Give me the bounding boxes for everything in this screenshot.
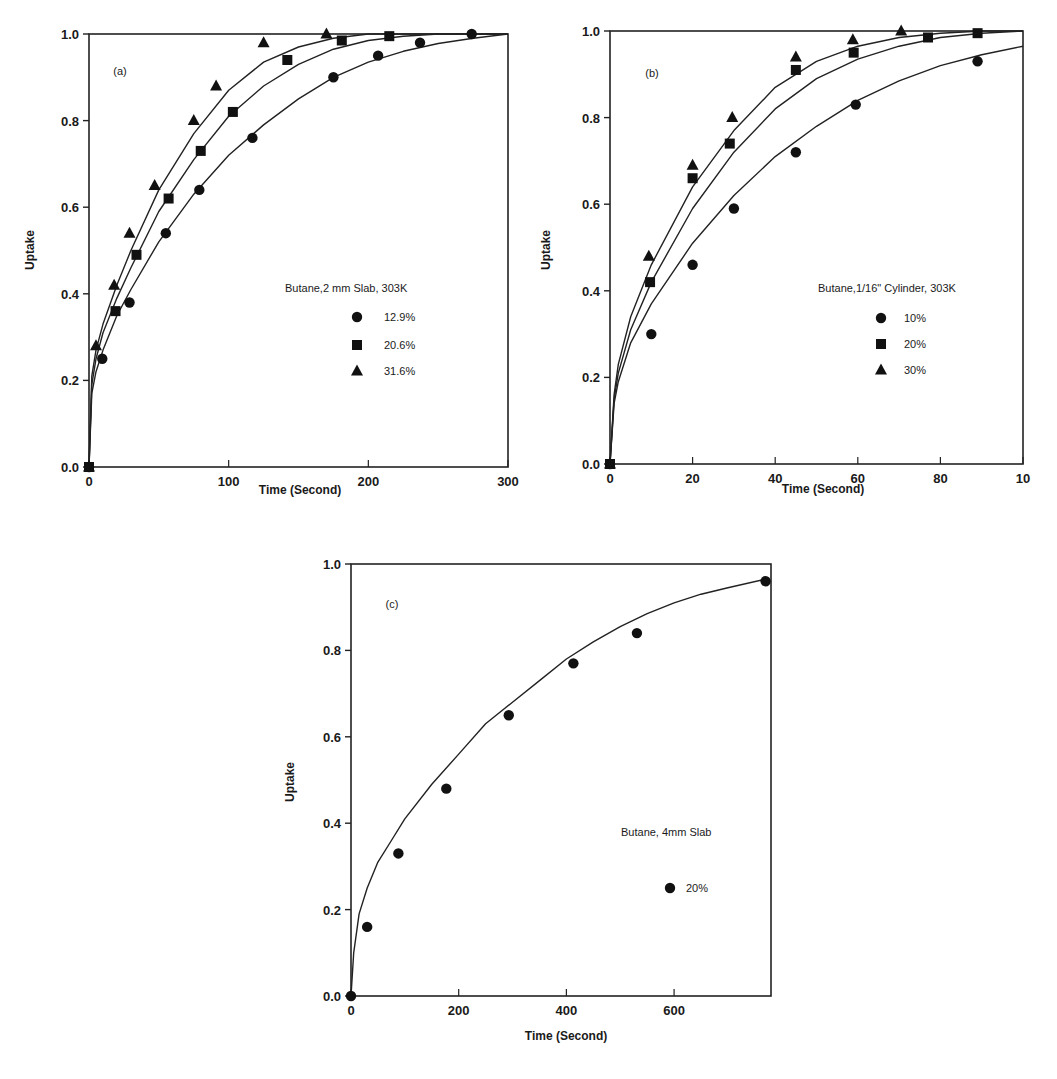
legend-label: 30% xyxy=(904,364,926,376)
data-point-triangle xyxy=(149,179,161,190)
data-point-circle xyxy=(504,710,514,720)
y-tick-label: 0.4 xyxy=(61,287,80,302)
fit-curve-square xyxy=(610,31,1023,464)
data-point-square xyxy=(645,277,655,287)
y-tick-label: 0.0 xyxy=(323,989,341,1004)
x-tick-label: 300 xyxy=(497,474,519,489)
y-axis-title: Uptake xyxy=(539,230,553,270)
data-point-square xyxy=(164,194,174,204)
legend-label: 31.6% xyxy=(384,365,415,377)
plot-frame xyxy=(610,31,1023,464)
y-tick-label: 0.8 xyxy=(323,643,341,658)
x-tick-label: 10 xyxy=(1016,471,1030,486)
data-point-circle xyxy=(97,354,107,364)
x-tick-label: 600 xyxy=(663,1003,685,1018)
x-axis-title: Time (Second) xyxy=(525,1029,607,1043)
chart-a-svg: 0.00.20.40.60.81.00100200300Time (Second… xyxy=(0,0,530,520)
legend-square-icon xyxy=(352,340,362,350)
y-tick-label: 0.4 xyxy=(323,816,342,831)
data-point-circle xyxy=(247,133,257,143)
data-point-triangle xyxy=(895,25,907,36)
x-tick-label: 0 xyxy=(347,1003,354,1018)
data-point-circle xyxy=(646,329,656,339)
data-point-triangle xyxy=(643,250,655,261)
data-point-square xyxy=(791,65,801,75)
data-point-circle xyxy=(415,37,425,47)
data-point-circle xyxy=(373,50,383,60)
data-point-circle xyxy=(346,991,356,1001)
data-point-circle xyxy=(362,922,372,932)
data-point-circle xyxy=(393,848,403,858)
fit-curve-circle xyxy=(610,46,1023,464)
y-tick-label: 0.4 xyxy=(582,284,601,299)
data-point-circle xyxy=(632,628,642,638)
x-tick-label: 200 xyxy=(357,474,379,489)
data-point-triangle xyxy=(320,28,332,39)
chart-c-svg: 0.00.20.40.60.81.00200400600Time (Second… xyxy=(270,540,810,1079)
data-point-square xyxy=(228,107,238,117)
panel-label: (b) xyxy=(645,67,658,79)
chart-panel-c: 0.00.20.40.60.81.00200400600Time (Second… xyxy=(270,540,810,1079)
x-tick-label: 0 xyxy=(606,471,613,486)
legend-triangle-icon xyxy=(351,365,363,376)
data-point-circle xyxy=(194,185,204,195)
y-tick-label: 1.0 xyxy=(323,557,341,572)
chart-panel-a: 0.00.20.40.60.81.00100200300Time (Second… xyxy=(0,0,530,520)
y-tick-label: 1.0 xyxy=(61,27,79,42)
data-point-circle xyxy=(441,783,451,793)
x-tick-label: 0 xyxy=(85,474,92,489)
legend-square-icon xyxy=(876,339,886,349)
plot-frame xyxy=(351,564,771,996)
data-point-square xyxy=(973,28,983,38)
data-point-circle xyxy=(328,72,338,82)
legend-title: Butane,2 mm Slab, 303K xyxy=(285,282,408,294)
x-tick-label: 200 xyxy=(448,1003,470,1018)
data-point-square xyxy=(337,35,347,45)
y-axis-title: Uptake xyxy=(23,230,37,270)
legend-circle-icon xyxy=(665,883,675,893)
data-point-triangle xyxy=(847,33,859,44)
x-tick-label: 80 xyxy=(933,471,947,486)
y-tick-label: 0.2 xyxy=(323,903,341,918)
data-point-circle xyxy=(687,260,697,270)
data-point-square xyxy=(131,250,141,260)
legend-label: 12.9% xyxy=(384,311,415,323)
legend-circle-icon xyxy=(876,313,886,323)
legend-label: 20.6% xyxy=(384,339,415,351)
data-point-square xyxy=(688,173,698,183)
chart-b-svg: 0.00.20.40.60.81.002040608010Time (Secon… xyxy=(530,0,1057,520)
y-tick-label: 0.6 xyxy=(323,730,341,745)
fit-curve-circle xyxy=(351,579,766,996)
y-tick-label: 0.6 xyxy=(61,200,79,215)
data-point-triangle xyxy=(687,159,699,170)
data-point-circle xyxy=(568,658,578,668)
fit-curve-circle xyxy=(89,34,508,467)
legend-label: 10% xyxy=(904,312,926,324)
data-point-triangle xyxy=(258,36,270,47)
legend-label: 20% xyxy=(904,338,926,350)
y-tick-label: 0.6 xyxy=(582,197,600,212)
data-point-square xyxy=(725,139,735,149)
data-point-circle xyxy=(124,297,134,307)
y-tick-label: 0.2 xyxy=(61,373,79,388)
data-point-circle xyxy=(972,56,982,66)
legend-circle-icon xyxy=(352,312,362,322)
data-point-square xyxy=(923,32,933,42)
y-axis-title: Uptake xyxy=(283,762,297,802)
data-point-circle xyxy=(161,228,171,238)
data-point-circle xyxy=(466,29,476,39)
data-point-square xyxy=(282,55,292,65)
data-point-circle xyxy=(851,99,861,109)
chart-panel-b: 0.00.20.40.60.81.002040608010Time (Secon… xyxy=(530,0,1057,520)
y-tick-label: 1.0 xyxy=(582,24,600,39)
x-axis-title: Time (Second) xyxy=(259,483,341,497)
x-tick-label: 400 xyxy=(556,1003,578,1018)
data-point-square xyxy=(849,48,859,58)
panel-label: (c) xyxy=(386,598,399,610)
x-tick-label: 100 xyxy=(218,474,240,489)
fit-curve-triangle xyxy=(610,31,1023,464)
data-point-triangle xyxy=(726,111,738,122)
data-point-square xyxy=(196,146,206,156)
data-point-square xyxy=(384,31,394,41)
legend-label: 20% xyxy=(686,882,708,894)
